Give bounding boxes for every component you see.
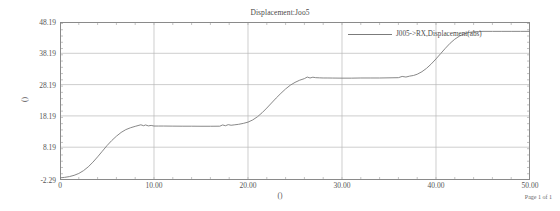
x-tick-label: 0: [58, 181, 62, 190]
x-tick-label: 30.00: [334, 181, 351, 190]
x-tick-label: 50.00: [522, 181, 539, 190]
y-tick-label: 48.19: [39, 18, 56, 27]
minor-tick-marks: [60, 22, 530, 180]
page-footer: Page 1 of 1: [525, 194, 552, 200]
y-tick-label: -2.29: [40, 176, 56, 185]
x-axis-label: (): [0, 191, 560, 200]
y-tick-label: 18.19: [39, 111, 56, 120]
chart-title: Displacement:Joo5: [0, 8, 560, 17]
y-tick-label: 8.19: [43, 143, 56, 152]
legend-line-swatch: [348, 34, 392, 35]
plot-area: [60, 22, 530, 180]
x-tick-label: 10.00: [146, 181, 163, 190]
grid-lines: [60, 22, 530, 180]
plot-border: [61, 23, 530, 180]
x-tick-label: 20.00: [240, 181, 257, 190]
y-tick-label: 38.19: [39, 49, 56, 58]
x-tick-label: 40.00: [428, 181, 445, 190]
chart-page: Displacement:Joo5 () -2.298.1918.1928.19…: [0, 0, 560, 211]
legend-label: J005->RX,Displacement(abs): [396, 30, 482, 38]
y-tick-label: 28.19: [39, 80, 56, 89]
y-axis-tick-labels: -2.298.1918.1928.1938.1948.19: [0, 22, 56, 180]
chart-legend: J005->RX,Displacement(abs): [348, 30, 482, 38]
plot-svg: [60, 22, 530, 180]
